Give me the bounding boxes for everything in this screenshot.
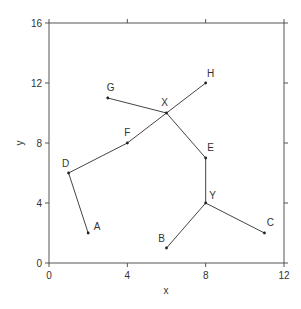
x-tick-label: 12	[278, 270, 290, 281]
node-label-X: X	[161, 97, 168, 108]
node-label-Y: Y	[209, 190, 216, 201]
node-C	[263, 232, 266, 235]
plot-frame	[49, 23, 284, 263]
edge-X-H	[167, 83, 206, 113]
edge-Y-C	[206, 203, 265, 233]
node-E	[204, 157, 207, 160]
edge-G-X	[108, 98, 167, 113]
node-X	[165, 112, 168, 115]
node-H	[204, 82, 207, 85]
x-tick-label: 8	[203, 270, 209, 281]
y-tick-label: 0	[36, 258, 42, 269]
node-label-F: F	[124, 127, 130, 138]
node-label-C: C	[267, 217, 274, 228]
node-label-D: D	[62, 158, 69, 169]
y-axis-label: y	[14, 141, 25, 146]
node-D	[67, 172, 70, 175]
x-tick-label: 0	[46, 270, 52, 281]
edge-D-F	[69, 143, 128, 173]
y-tick-label: 12	[31, 78, 43, 89]
tree-diagram: 048120481216 ABCDEFGHXY x y	[0, 0, 301, 309]
y-tick-label: 16	[31, 18, 43, 29]
edge-F-X	[127, 113, 166, 143]
x-tick-label: 4	[125, 270, 131, 281]
node-B	[165, 247, 168, 250]
node-label-H: H	[207, 68, 214, 79]
node-G	[106, 97, 109, 100]
node-F	[126, 142, 129, 145]
y-tick-label: 8	[36, 138, 42, 149]
node-label-B: B	[158, 233, 165, 244]
node-Y	[204, 202, 207, 205]
x-axis-label: x	[164, 285, 169, 296]
node-label-E: E	[207, 142, 214, 153]
edge-X-E	[167, 113, 206, 158]
node-A	[87, 232, 90, 235]
node-label-A: A	[94, 221, 101, 232]
y-tick-label: 4	[36, 198, 42, 209]
node-label-G: G	[107, 82, 115, 93]
edge-A-D	[69, 173, 89, 233]
edge-Y-B	[167, 203, 206, 248]
